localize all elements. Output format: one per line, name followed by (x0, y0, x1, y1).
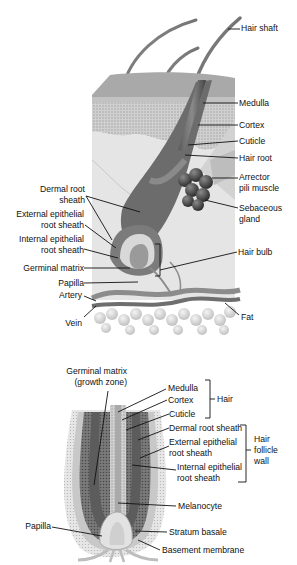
label-int-epithelial-1: Internal epithelial (19, 234, 84, 244)
label-sebaceous-2: gland (239, 214, 260, 224)
label-papilla: Papilla (58, 278, 84, 288)
label-basement-membrane: Basement membrane (162, 545, 244, 555)
label-hair-bulb: Hair bulb (238, 247, 272, 257)
label-artery: Artery (59, 290, 82, 300)
label-dermal-root-sheath-2: sheath (59, 195, 85, 205)
group-label-follicle-wall-3: wall (254, 456, 269, 466)
label-germinal-matrix-growth-2: (growth zone) (74, 377, 127, 387)
label-int-epithelial-detail-1: Internal epithelial (177, 462, 242, 472)
label-cortex-detail: Cortex (168, 395, 193, 405)
label-vein: Vein (65, 318, 82, 328)
illustration (0, 0, 297, 565)
label-ext-epithelial-detail-1: External epithelial (169, 437, 237, 447)
label-cuticle-detail: Cuticle (169, 409, 195, 419)
label-int-epithelial-detail-2: root sheath (177, 473, 220, 483)
label-dermal-root-sheath-1: Dermal root (40, 184, 85, 194)
label-melanocyte: Melanocyte (178, 501, 222, 511)
label-germinal-matrix-growth-1: Germinal matrix (66, 366, 127, 376)
label-germinal-matrix: Germinal matrix (23, 263, 84, 273)
label-ext-epithelial-detail-2: root sheath (169, 448, 212, 458)
label-stratum-basale: Stratum basale (169, 527, 227, 537)
label-hair-root: Hair root (239, 153, 272, 163)
label-fat: Fat (241, 312, 253, 322)
label-cuticle: Cuticle (239, 136, 265, 146)
label-ext-epithelial-1: External epithelial (16, 209, 84, 219)
label-arrector-pili-1: Arrector (239, 172, 270, 182)
label-cortex: Cortex (239, 120, 264, 130)
label-arrector-pili-2: pili muscle (239, 183, 279, 193)
label-sebaceous-1: Sebaceous (239, 203, 282, 213)
group-label-hair: Hair (217, 394, 233, 404)
label-medulla: Medulla (239, 98, 269, 108)
label-hair-shaft: Hair shaft (241, 23, 278, 33)
label-dermal-root-sheath-detail: Dermal root sheath (169, 423, 242, 433)
group-label-follicle-wall-1: Hair (254, 434, 270, 444)
group-label-follicle-wall-2: follicle (254, 445, 278, 455)
label-papilla-detail: Papilla (25, 521, 51, 531)
label-medulla-detail: Medulla (168, 383, 198, 393)
label-int-epithelial-2: root sheath (41, 245, 84, 255)
label-ext-epithelial-2: root sheath (41, 220, 84, 230)
skin-section-figure (84, 18, 240, 335)
